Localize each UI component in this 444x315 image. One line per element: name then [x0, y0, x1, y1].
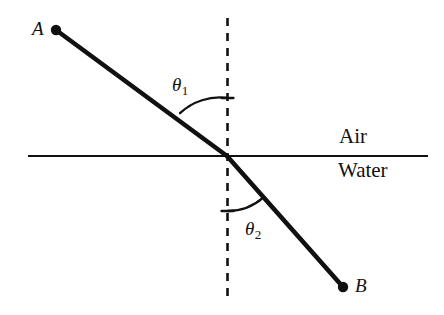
point-a-dot [51, 25, 61, 35]
theta2-subscript: 2 [254, 227, 261, 242]
theta1-symbol: θ [172, 74, 181, 95]
medium-air-label: Air [339, 126, 367, 147]
theta2-label: θ2 [245, 219, 261, 241]
point-b-label: B [355, 276, 367, 295]
medium-water-label: Water [338, 160, 388, 181]
theta2-angle-arc [228, 197, 264, 211]
theta1-label: θ1 [172, 75, 188, 97]
theta2-symbol: θ [245, 218, 254, 239]
refraction-diagram: A B Air Water θ1 θ2 [0, 0, 444, 315]
point-b-dot [338, 282, 348, 292]
point-a-label: A [32, 19, 44, 38]
theta1-angle-arc [180, 97, 228, 113]
incident-ray [56, 30, 227, 156]
theta1-subscript: 1 [181, 83, 188, 98]
